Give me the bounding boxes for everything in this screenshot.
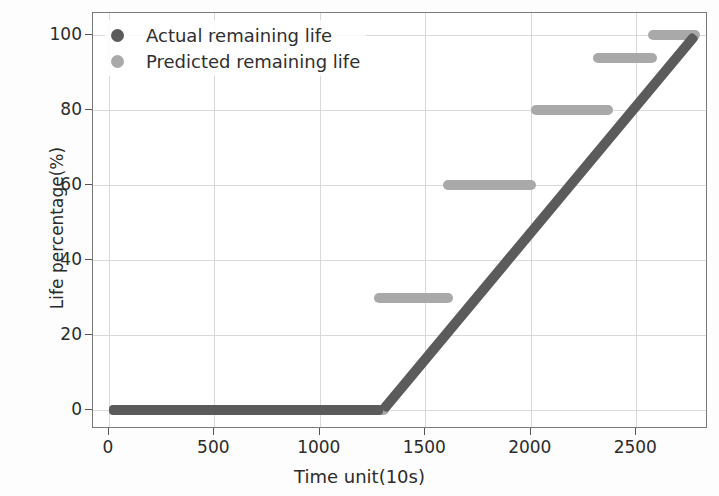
gridline-horizontal [93, 335, 706, 336]
predicted-plateau-segment [443, 180, 536, 190]
x-axis-tick-label: 2500 [595, 437, 675, 457]
y-axis-tick-label: 100 [30, 24, 82, 44]
y-axis-tick-label: 0 [30, 399, 82, 419]
y-axis-title: Life percentage(%) [47, 113, 67, 343]
x-axis-tick [530, 428, 531, 435]
y-axis-tick-label: 60 [30, 174, 82, 194]
y-axis-tick [85, 184, 92, 185]
x-axis-tick [213, 428, 214, 435]
gridline-horizontal [93, 260, 706, 261]
legend-item-predicted: Predicted remaining life [111, 48, 360, 74]
x-axis-tick [635, 428, 636, 435]
legend-label-predicted: Predicted remaining life [146, 51, 360, 72]
y-axis-tick [85, 34, 92, 35]
legend-label-actual: Actual remaining life [146, 25, 332, 46]
y-axis-tick-label: 40 [30, 249, 82, 269]
legend-marker-actual-icon [111, 29, 124, 42]
y-axis-tick [85, 109, 92, 110]
gridline-vertical [531, 13, 532, 427]
actual-life-line-segment [109, 405, 383, 415]
y-axis-tick-label: 80 [30, 99, 82, 119]
predicted-plateau-segment [593, 53, 657, 63]
y-axis-tick [85, 409, 92, 410]
x-axis-tick [108, 428, 109, 435]
x-axis-tick-label: 1000 [279, 437, 359, 457]
gridline-horizontal [93, 185, 706, 186]
y-axis-tick [85, 334, 92, 335]
predicted-plateau-segment [374, 293, 453, 303]
x-axis-tick-label: 500 [173, 437, 253, 457]
x-axis-title: Time unit(10s) [0, 466, 719, 487]
x-axis-tick-label: 2000 [490, 437, 570, 457]
legend-item-actual: Actual remaining life [111, 22, 360, 48]
y-axis-tick-label: 20 [30, 324, 82, 344]
actual-life-line-segment [379, 32, 699, 413]
x-axis-tick [319, 428, 320, 435]
x-axis-tick [424, 428, 425, 435]
legend-marker-predicted-icon [111, 55, 124, 68]
chart-legend: Actual remaining life Predicted remainin… [105, 20, 366, 76]
chart-figure: Life percentage(%) Time unit(10s) Actual… [0, 0, 719, 496]
x-axis-tick-label: 0 [68, 437, 148, 457]
x-axis-tick-label: 1500 [384, 437, 464, 457]
gridline-horizontal [93, 110, 706, 111]
y-axis-tick [85, 259, 92, 260]
gridline-vertical [636, 13, 637, 427]
predicted-plateau-segment [531, 105, 613, 115]
